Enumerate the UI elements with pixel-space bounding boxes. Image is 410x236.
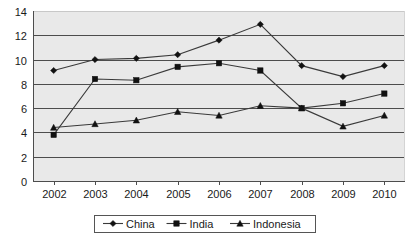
x-axis-tick-label: 2004: [124, 188, 148, 200]
chart-canvas: 02468101214 2002200320042005200620072008…: [0, 0, 410, 236]
x-axis-tick-label: 2007: [248, 188, 272, 200]
y-axis-tick-label: 10: [15, 55, 27, 67]
y-axis-tick-label: 2: [21, 152, 27, 164]
legend-label: China: [126, 218, 156, 230]
x-axis-tick-label: 2006: [207, 188, 231, 200]
data-point-india: [51, 132, 56, 137]
y-axis-tick-label: 12: [15, 30, 27, 42]
y-axis-tick-label: 4: [21, 127, 27, 139]
legend-marker-square-icon: [174, 221, 179, 226]
x-axis-tick-label: 2008: [290, 188, 314, 200]
line-chart: 02468101214 2002200320042005200620072008…: [0, 0, 410, 236]
x-axis-tick-label: 2003: [83, 188, 107, 200]
data-point-india: [92, 76, 97, 81]
data-point-india: [216, 61, 221, 66]
y-axis-tick-label: 0: [21, 176, 27, 188]
chart-legend: ChinaIndiaIndonesia: [94, 215, 315, 232]
y-axis-tick-label: 8: [21, 79, 27, 91]
plot-area-background: [33, 11, 405, 181]
data-point-india: [258, 68, 263, 73]
legend-label: India: [190, 218, 215, 230]
data-point-india: [134, 78, 139, 83]
data-point-india: [382, 91, 387, 96]
data-point-india: [175, 64, 180, 69]
y-axis-tick-label: 6: [21, 103, 27, 115]
x-axis-tick-label: 2005: [166, 188, 190, 200]
x-axis-tick-label: 2010: [372, 188, 396, 200]
y-axis-tick-label: 14: [15, 6, 27, 18]
x-axis-tick-labels: 200220032004200520062007200820092010: [42, 188, 396, 200]
x-axis-tick-label: 2002: [42, 188, 66, 200]
legend-label: Indonesia: [253, 218, 302, 230]
x-axis-tick-label: 2009: [331, 188, 355, 200]
data-point-india: [340, 101, 345, 106]
